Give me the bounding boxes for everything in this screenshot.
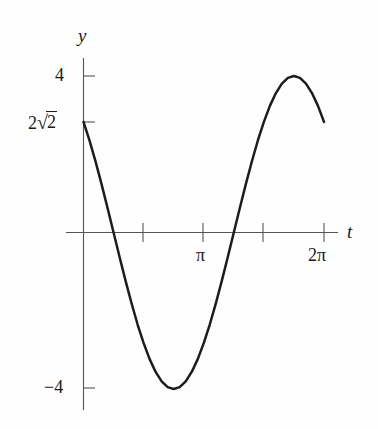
radical-expression: 2√2 — [28, 112, 57, 132]
x-axis-label: t — [347, 222, 352, 241]
y-tick-label-minus4: −4 — [44, 378, 63, 396]
radical-coefficient: 2 — [28, 113, 37, 133]
y-tick-label-4: 4 — [55, 66, 64, 84]
x-tick-label-pi: π — [196, 246, 205, 264]
x-tick-label-two-pi: 2π — [308, 246, 326, 264]
radical-radicand: 2 — [46, 111, 57, 131]
y-tick-label-2sqrt2: 2√2 — [28, 112, 57, 132]
plot-figure: y t 4 2√2 −4 π 2π — [0, 0, 378, 429]
y-axis-label: y — [78, 26, 86, 45]
